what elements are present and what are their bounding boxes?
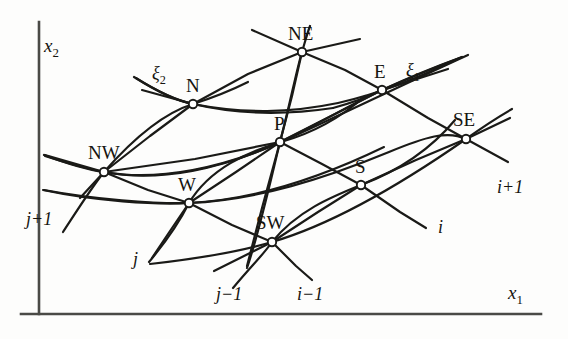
grid-node-e — [378, 86, 386, 94]
index-label-j-minus-1: j−1 — [216, 285, 242, 303]
grid-node-p — [276, 138, 284, 146]
grid-node-nw — [100, 168, 108, 176]
index-label-j-index: j — [133, 250, 138, 268]
grid-node-w — [185, 199, 193, 207]
grid-node-s — [357, 181, 365, 189]
node-label-p: P — [274, 114, 285, 133]
index-label-i-index: i — [438, 218, 443, 236]
xi1-curve-lowest — [150, 109, 512, 264]
node-label-e: E — [374, 62, 386, 81]
seg-SE-right-down — [466, 139, 508, 162]
axis-label-x2: x2 — [44, 36, 59, 60]
seg-SW-down-right — [272, 242, 312, 280]
index-label-j-plus-1: j+1 — [26, 210, 52, 228]
grid-node-ne — [298, 48, 306, 56]
seg-xi1-NE-to-E — [302, 52, 382, 90]
seg-P-to-E — [280, 90, 382, 142]
node-label-se: SE — [453, 110, 475, 129]
cartesian-axes — [21, 22, 541, 314]
grid-node-sw — [268, 238, 276, 246]
seg-row-S-SE — [361, 139, 466, 185]
seg-row-SW-S — [272, 185, 361, 242]
coordinate-label-xi-1: ξ1 — [406, 61, 420, 83]
coordinate-label-xi-2: ξ2 — [152, 64, 166, 86]
seg-SE-down-to-iplus1 — [466, 139, 500, 176]
gridline-xi1-row-middle — [45, 142, 280, 176]
xi2-curve-far-right — [400, 62, 504, 238]
figure-canvas: NENESEPNWSWSWξ2ξ1j+1jj−1i−1ii+1 x2 x1 — [0, 0, 568, 339]
seg-W-down — [152, 203, 189, 258]
node-label-nw: NW — [88, 143, 120, 162]
axis-label-x1: x1 — [508, 283, 523, 307]
node-label-s: S — [355, 157, 366, 176]
grid-node-n — [189, 100, 197, 108]
seg-NW-down — [80, 172, 104, 198]
grid-node-se — [462, 135, 470, 143]
seg-row-SW-left — [214, 242, 272, 271]
seg-xi1-N-to-NE — [193, 52, 302, 104]
xi2-curve-through-E-SE — [400, 70, 500, 240]
curvilinear-grid-diagram — [0, 0, 568, 339]
seg-S-down-right — [361, 185, 426, 228]
node-label-ne: NE — [288, 24, 313, 43]
index-label-i-plus-1: i+1 — [497, 178, 523, 196]
index-label-i-minus-1: i−1 — [297, 285, 323, 303]
seg-SE-up-label — [466, 139, 492, 175]
seg-NW-to-P — [104, 142, 280, 172]
node-label-n: N — [186, 76, 200, 95]
node-label-w: W — [178, 175, 196, 194]
node-label-sw: SW — [256, 213, 285, 232]
